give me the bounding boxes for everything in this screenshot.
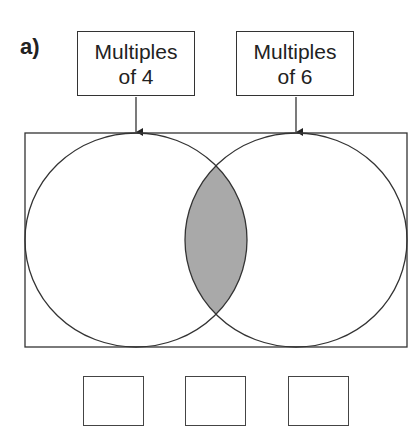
answer-box-2[interactable] [185,376,246,426]
shaded-intersection [185,133,407,347]
answer-box-3[interactable] [288,376,349,426]
answer-box-1[interactable] [83,376,144,426]
